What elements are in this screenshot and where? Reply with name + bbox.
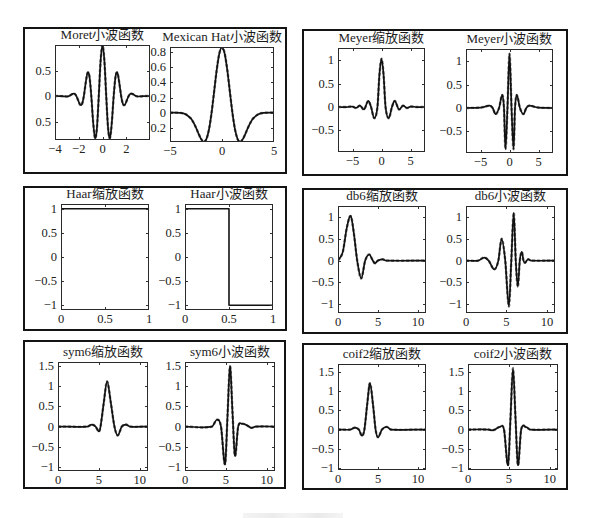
y-tick-label: −0.5 — [311, 442, 334, 455]
x-tick-label: 1 — [146, 313, 152, 326]
x-tick-label: 0 — [506, 156, 512, 169]
x-tick-label: 0.5 — [221, 313, 237, 326]
function-curve — [55, 45, 150, 138]
x-tick-label: 0 — [463, 316, 469, 329]
y-tick-label: 0.5 — [318, 232, 334, 245]
x-tick-label: 0 — [465, 473, 471, 486]
plot-area — [61, 204, 149, 310]
panel-haar: Haar缩放函数 10.50−0.5−100.51 Haar小波函数 10.50… — [23, 186, 287, 331]
plot-area — [466, 206, 555, 313]
y-tick-label: 1 — [48, 380, 54, 393]
x-tick-label: 5 — [375, 316, 381, 329]
x-tick-label: 5 — [96, 474, 102, 487]
plot-db6-scaling: db6缩放函数 10.50−0.5−10510 — [338, 206, 426, 313]
plot-haar-scaling: Haar缩放函数 10.50−0.5−100.51 — [61, 204, 149, 310]
function-curve-markers — [468, 368, 558, 465]
plot-area — [338, 206, 426, 313]
y-tick-label: 1 — [458, 384, 464, 397]
x-tick-label: 10 — [541, 316, 554, 329]
x-tick-label: 0 — [335, 316, 341, 329]
plot-title: Meyer小波函数 — [467, 32, 553, 46]
x-tick-label: 0 — [55, 474, 61, 487]
y-tick-label: −0.5 — [34, 275, 57, 288]
y-tick-label: −1 — [41, 460, 54, 473]
y-tick-label: −0.5 — [439, 125, 462, 138]
tick-marks — [338, 364, 426, 470]
plot-area — [185, 362, 275, 471]
plot-haar-wavelet: Haar小波函数 10.50−0.5−100.51 — [185, 204, 273, 310]
function-curve — [170, 47, 274, 142]
x-tick-label: 2 — [123, 143, 129, 156]
function-curve-markers — [170, 47, 274, 142]
x-tick-label: 10 — [412, 473, 425, 486]
y-tick-label: 0.2 — [150, 121, 166, 134]
x-tick-label: 0 — [378, 155, 384, 168]
plot-title: Meyer缩放函数 — [339, 31, 425, 45]
plot-area — [185, 204, 273, 310]
y-tick-label: 0.6 — [150, 61, 166, 74]
y-tick-label: 1 — [328, 54, 334, 67]
plot-meyer-scaling: Meyer缩放函数 10.50−0.5−505 — [338, 48, 425, 152]
x-tick-label: 10 — [134, 474, 147, 487]
tick-marks — [61, 204, 149, 310]
y-tick-label: −0.5 — [439, 276, 462, 289]
plot-coif2-scaling: coif2缩放函数 1.510.50−0.5−10510 — [338, 364, 426, 470]
y-tick-label: −0.5 — [158, 440, 181, 453]
x-tick-label: 5 — [375, 473, 381, 486]
y-tick-label: −1 — [321, 462, 334, 475]
panel-morlet-mexican-hat: Moret小波函数 0.500.5−4−202 Mexican Hat小波函数 … — [23, 27, 287, 174]
y-tick-label: −0.5 — [311, 276, 334, 289]
x-tick-label: 0 — [182, 474, 188, 487]
tick-marks — [170, 47, 274, 142]
x-tick-label: −2 — [72, 143, 85, 156]
y-tick-label: −1 — [168, 299, 181, 312]
y-tick-label: 0.5 — [318, 404, 334, 417]
x-tick-label: 5 — [271, 145, 277, 158]
plot-coif2-wavelet: coif2小波函数 1.510.50−0.5−10510 — [468, 364, 558, 470]
function-curve — [338, 59, 425, 118]
y-tick-label: 0 — [328, 254, 334, 267]
y-tick-label: 0.5 — [318, 77, 334, 90]
plot-db6-wavelet: db6小波函数 10.50−0.5−10510 — [466, 206, 555, 313]
y-tick-label: 0.8 — [150, 46, 166, 59]
function-curve-markers — [338, 59, 425, 118]
x-tick-label: 10 — [544, 473, 557, 486]
plot-title: sym6小波函数 — [190, 345, 270, 359]
y-tick-label: −1 — [168, 460, 181, 473]
wavelet-figure: Moret小波函数 0.500.5−4−202 Mexican Hat小波函数 … — [0, 0, 591, 518]
y-tick-label: 0 — [328, 423, 334, 436]
plot-title: Mexican Hat小波函数 — [162, 30, 282, 44]
y-tick-label: −1 — [321, 298, 334, 311]
panel-sym6: sym6缩放函数 1.510.50−0.5−10510 sym6小波函数 1.5… — [23, 340, 286, 489]
axes-box — [339, 365, 426, 470]
y-tick-label: 0.5 — [446, 78, 462, 91]
y-tick-label: 0 — [45, 90, 51, 103]
plot-morlet-wavelet: Moret小波函数 0.500.5−4−202 — [55, 45, 150, 140]
y-tick-label: 1 — [51, 202, 57, 215]
plot-title: sym6缩放函数 — [63, 345, 143, 359]
plot-mexican-hat-wavelet: Mexican Hat小波函数 0.80.60.40.200.2−505 — [170, 47, 274, 142]
plot-title: Haar缩放函数 — [66, 187, 143, 201]
x-tick-label: 10 — [412, 316, 425, 329]
x-tick-label: 0 — [58, 313, 64, 326]
y-tick-label: 0.5 — [448, 404, 464, 417]
plot-title: coif2缩放函数 — [343, 347, 422, 361]
y-tick-label: −0.5 — [31, 440, 54, 453]
y-tick-label: 1 — [328, 384, 334, 397]
function-curve-markers — [466, 54, 553, 150]
plot-title: db6小波函数 — [475, 189, 547, 203]
x-tick-label: 0.5 — [97, 313, 113, 326]
y-tick-label: 0 — [456, 102, 462, 115]
function-curve — [185, 209, 273, 305]
y-tick-label: 0.5 — [165, 400, 181, 413]
x-tick-label: 0 — [219, 145, 225, 158]
x-tick-label: 0 — [99, 143, 105, 156]
function-curve-markers — [338, 216, 426, 279]
plot-title: db6缩放函数 — [346, 189, 418, 203]
tick-marks — [55, 45, 150, 140]
plot-sym6-scaling: sym6缩放函数 1.510.50−0.5−10510 — [58, 362, 148, 471]
y-tick-label: −0.5 — [311, 124, 334, 137]
y-tick-label: 0 — [160, 106, 166, 119]
plot-area — [466, 49, 553, 153]
plot-area — [55, 45, 150, 140]
